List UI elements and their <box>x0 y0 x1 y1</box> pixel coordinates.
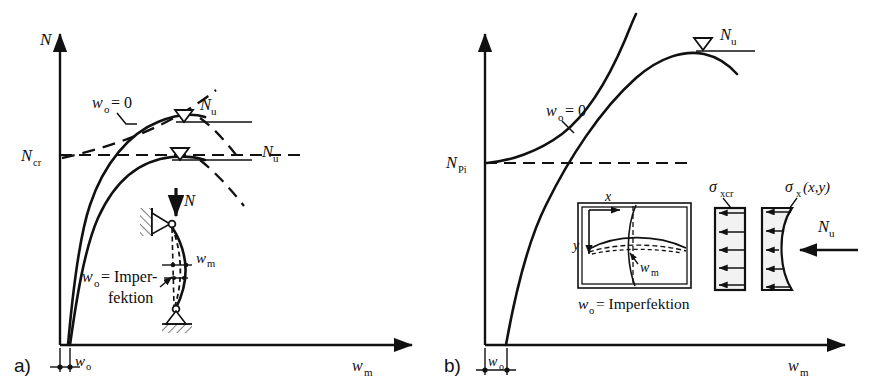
panel-a-y-axis-label: N <box>39 30 53 49</box>
panel-b-sigma-x-rest: (x,y) <box>803 179 830 196</box>
panel-a-perfect-label: w <box>92 94 103 111</box>
panel-b-inset-wm-sub: m <box>651 267 659 278</box>
panel-b-perfect-label-rest: = 0 <box>565 102 586 119</box>
panel-b-sigma-xcr-block <box>715 208 745 290</box>
panel-b-wo-sub: o <box>499 361 504 372</box>
panel-b-inset-x-label: x <box>604 189 612 204</box>
panel-a-wo-sub: o <box>86 361 91 372</box>
panel-b-x-axis-label: w <box>788 357 799 374</box>
panel-a-inset-load-label: N <box>183 191 196 210</box>
panel-a-imperfection-label: w <box>82 268 93 285</box>
panel-a-x-axis-label: w <box>352 357 363 374</box>
panel-a-imperfection-rest: = Imper- <box>101 268 157 286</box>
panel-a-upper-postpeak-dashed <box>200 118 240 160</box>
panel-a-ncr-label: N <box>20 146 33 165</box>
panel-b-sigma-x-label: σ <box>785 178 794 195</box>
panel-a-tag: a) <box>14 355 31 376</box>
panel-a-perfect-leader <box>117 113 137 124</box>
panel-a-lower-curve <box>70 157 205 345</box>
panel-b-sigma-x-xy-block <box>762 208 792 290</box>
panel-a-perfect-label-rest: = 0 <box>111 94 132 111</box>
panel-a-inset-wm-label: w <box>196 250 206 266</box>
panel-a-inset-wm-sub: m <box>207 258 215 269</box>
panel-b-sigma-xcr-sub: xcr <box>720 188 734 199</box>
panel-a-inset-column: N w m <box>140 188 215 333</box>
panel-b-imperfection-label: w <box>578 295 589 312</box>
panel-a-nu-lower-sub: u <box>273 152 279 164</box>
panel-b: N u w o = 0 N Pi w m w o b) <box>444 14 858 378</box>
panel-b-inset-y-label: y <box>571 238 580 253</box>
panel-b-tag: b) <box>444 355 461 376</box>
panel-a-lower-postpeak-dashed <box>200 160 244 206</box>
panel-b-perfect-curve <box>487 14 636 163</box>
panel-b-npi-sub: Pi <box>458 164 467 175</box>
panel-b-x-axis-sub: m <box>800 366 809 378</box>
panel-b-imperfection-rest: = Imperfektion <box>596 295 690 312</box>
panel-b-sigma-xcr-leader <box>723 198 731 208</box>
panel-b-sigma-x-sub: x <box>796 188 802 199</box>
panel-b-perfect-label: w <box>546 102 557 119</box>
panel-b-imperfection-sub: o <box>589 305 594 316</box>
panel-a-perfect-label-sub: o <box>104 103 110 115</box>
panel-a-x-axis-sub: m <box>364 366 373 378</box>
panel-b-inset-wm-label: w <box>640 260 650 275</box>
panel-b-inset-plate: x y w m <box>571 189 691 288</box>
figure-svg: N u N u w o = 0 N cr N w m <box>0 0 875 392</box>
panel-a-perfect-branch <box>62 90 216 158</box>
panel-b-nu-load-sub: u <box>829 227 835 239</box>
panel-a-wo-label: w <box>75 353 85 369</box>
panel-b-npi-label: N <box>445 153 458 172</box>
panel-a: N u N u w o = 0 N cr N w m <box>14 30 412 378</box>
panel-a-imperfection-line2: fektion <box>108 289 153 306</box>
panel-b-sigma-xcr-label: σ <box>709 178 718 195</box>
panel-b-wo-label: w <box>488 354 498 369</box>
panel-b-nu-sub: u <box>731 35 737 47</box>
panel-a-nu-upper-sub: u <box>211 105 217 117</box>
figure-root: N u N u w o = 0 N cr N w m <box>0 0 875 392</box>
panel-a-ncr-sub: cr <box>33 157 42 168</box>
panel-a-imperfection-sub: o <box>94 277 100 289</box>
